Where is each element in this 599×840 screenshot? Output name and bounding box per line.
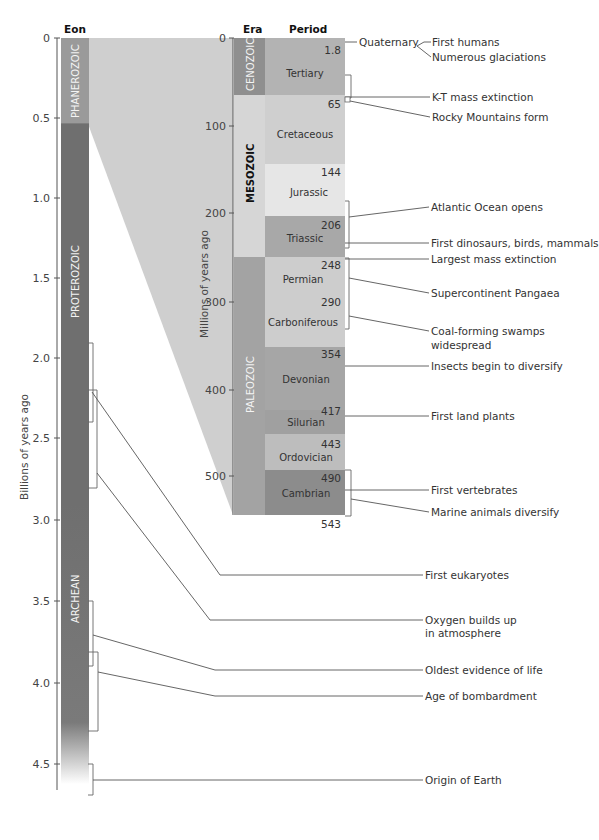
svg-text:First humans: First humans bbox=[432, 36, 500, 48]
svg-text:Marine animals diversify: Marine animals diversify bbox=[431, 506, 559, 518]
svg-text:0: 0 bbox=[219, 32, 226, 45]
svg-text:3.5: 3.5 bbox=[33, 595, 51, 608]
period-axis-label: Millions of years ago bbox=[198, 230, 210, 338]
svg-text:Insects begin to diversify: Insects begin to diversify bbox=[431, 360, 563, 372]
eon-header: Eon bbox=[64, 23, 86, 35]
svg-text:Oldest evidence of life: Oldest evidence of life bbox=[425, 664, 543, 676]
svg-text:Silurian: Silurian bbox=[287, 417, 325, 428]
svg-text:0.5: 0.5 bbox=[33, 112, 51, 125]
svg-text:65: 65 bbox=[328, 98, 341, 110]
eon-ticks: 0 0.5 1.0 1.5 2.0 2.5 3.0 3.5 4.0 4.5 bbox=[33, 32, 61, 771]
svg-text:1.5: 1.5 bbox=[33, 272, 51, 285]
svg-text:Supercontinent Pangaea: Supercontinent Pangaea bbox=[431, 287, 560, 299]
svg-text:400: 400 bbox=[205, 384, 226, 397]
svg-text:Numerous glaciations: Numerous glaciations bbox=[432, 51, 546, 63]
svg-text:1.0: 1.0 bbox=[33, 192, 51, 205]
svg-text:443: 443 bbox=[321, 438, 341, 450]
svg-text:Age of bombardment: Age of bombardment bbox=[425, 690, 537, 702]
svg-text:100: 100 bbox=[205, 120, 226, 133]
era-label-mesozoic: MESOZOIC bbox=[245, 144, 256, 203]
era-label-cenozoic: CENOZOIC bbox=[245, 38, 256, 91]
svg-text:490: 490 bbox=[321, 472, 341, 484]
svg-text:Coal-forming swamps: Coal-forming swamps bbox=[431, 325, 545, 337]
period-events: Quaternary First humans Numerous glaciat… bbox=[345, 36, 599, 518]
eon-label-phanerozoic: PHANEROZOIC bbox=[70, 44, 81, 118]
svg-text:Cretaceous: Cretaceous bbox=[277, 129, 333, 140]
geologic-timescale-diagram: Eon PHANEROZOIC PROTEROZOIC ARCHEAN 0 0.… bbox=[0, 0, 599, 840]
period-header: Period bbox=[289, 23, 327, 35]
svg-text:Triassic: Triassic bbox=[286, 233, 323, 244]
svg-text:500: 500 bbox=[205, 470, 226, 483]
svg-text:Tertiary: Tertiary bbox=[285, 68, 324, 79]
svg-text:First vertebrates: First vertebrates bbox=[431, 484, 517, 496]
svg-text:4.0: 4.0 bbox=[33, 677, 51, 690]
svg-text:417: 417 bbox=[321, 405, 341, 417]
svg-text:2.0: 2.0 bbox=[33, 352, 51, 365]
svg-text:290: 290 bbox=[321, 296, 341, 308]
svg-text:Largest mass extinction: Largest mass extinction bbox=[431, 253, 556, 265]
eon-column: Eon PHANEROZOIC PROTEROZOIC ARCHEAN 0 0.… bbox=[18, 23, 89, 790]
svg-text:200: 200 bbox=[205, 207, 226, 220]
svg-text:Carboniferous: Carboniferous bbox=[268, 317, 338, 328]
svg-text:Jurassic: Jurassic bbox=[289, 187, 328, 198]
svg-text:Permian: Permian bbox=[283, 274, 324, 285]
svg-text:widespread: widespread bbox=[431, 339, 491, 351]
svg-text:Atlantic Ocean opens: Atlantic Ocean opens bbox=[431, 201, 543, 213]
eon-archean bbox=[61, 504, 89, 784]
svg-text:Cambrian: Cambrian bbox=[282, 488, 331, 499]
svg-text:Origin of Earth: Origin of Earth bbox=[425, 774, 502, 786]
svg-text:354: 354 bbox=[321, 348, 341, 360]
svg-text:248: 248 bbox=[321, 259, 341, 271]
svg-text:Rocky Mountains form: Rocky Mountains form bbox=[432, 111, 548, 123]
era-header: Era bbox=[243, 23, 262, 35]
svg-text:First eukaryotes: First eukaryotes bbox=[425, 569, 509, 581]
svg-text:2.5: 2.5 bbox=[33, 432, 51, 445]
svg-text:First dinosaurs, birds, mammal: First dinosaurs, birds, mammals bbox=[431, 237, 599, 249]
svg-text:144: 144 bbox=[321, 166, 341, 178]
eon-label-archean: ARCHEAN bbox=[70, 575, 81, 623]
bottom-543: 543 bbox=[321, 518, 341, 530]
svg-text:in atmosphere: in atmosphere bbox=[425, 627, 501, 639]
svg-text:4.5: 4.5 bbox=[33, 758, 51, 771]
svg-text:Oxygen builds up: Oxygen builds up bbox=[425, 614, 517, 626]
svg-text:1.8: 1.8 bbox=[324, 44, 341, 56]
svg-text:K-T mass extinction: K-T mass extinction bbox=[432, 91, 533, 103]
svg-text:206: 206 bbox=[321, 219, 341, 231]
eon-axis-label: Billions of years ago bbox=[18, 394, 30, 500]
svg-text:Quaternary: Quaternary bbox=[359, 36, 419, 48]
era-label-paleozoic: PALEOZOIC bbox=[245, 356, 256, 413]
zoom-wedge bbox=[88, 38, 233, 515]
svg-text:First land plants: First land plants bbox=[431, 410, 515, 422]
svg-text:3.0: 3.0 bbox=[33, 514, 51, 527]
svg-text:Devonian: Devonian bbox=[282, 374, 329, 385]
svg-text:0: 0 bbox=[43, 32, 50, 45]
svg-text:Ordovician: Ordovician bbox=[279, 452, 333, 463]
eon-label-proterozoic: PROTEROZOIC bbox=[70, 245, 81, 318]
